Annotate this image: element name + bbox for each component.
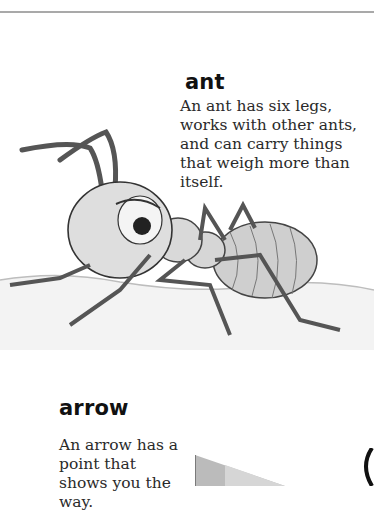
partial-illustration-icon xyxy=(360,448,374,486)
entry-definition-arrow: An arrow has a point that shows you the … xyxy=(59,436,189,512)
arrow-illustration-icon xyxy=(195,455,285,486)
entry-word-ant: ant xyxy=(185,70,225,94)
ant-illustration-icon xyxy=(0,120,374,350)
page-top-rule xyxy=(0,11,374,13)
entry-word-arrow: arrow xyxy=(59,396,129,420)
